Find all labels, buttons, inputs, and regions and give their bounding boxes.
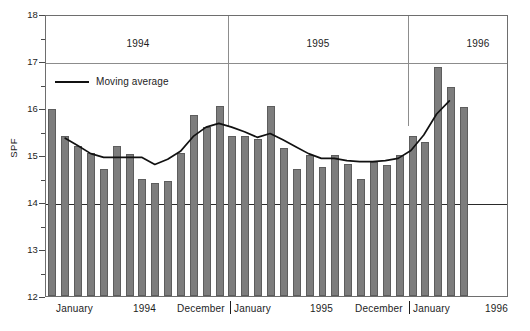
legend-line-swatch	[55, 81, 89, 83]
x-label-december-1994: December	[177, 303, 225, 314]
y-tick-label-13: 13	[14, 245, 38, 255]
x-label-january-1994: January	[56, 303, 93, 314]
y-tick-12	[39, 297, 45, 298]
x-label-1996: 1996	[485, 303, 508, 314]
x-divider-mark-1	[230, 301, 231, 314]
y-tick-label-12: 12	[14, 292, 38, 302]
legend: Moving average	[55, 76, 169, 87]
x-label-january-1995: January	[234, 303, 271, 314]
x-label-1995: 1995	[310, 303, 333, 314]
x-label-december-1995: December	[355, 303, 403, 314]
y-tick-label-18: 18	[14, 10, 38, 20]
spf-bar-chart-figure: SPF 12131415161718 1994 1995 1996 Moving…	[0, 0, 530, 331]
y-tick-label-15: 15	[14, 151, 38, 161]
x-divider-mark-2	[409, 301, 410, 314]
x-label-1994: 1994	[133, 303, 156, 314]
moving-average-line	[46, 16, 507, 296]
y-tick-label-14: 14	[14, 198, 38, 208]
plot-area: 1994 1995 1996	[45, 15, 508, 297]
y-tick-label-16: 16	[14, 104, 38, 114]
legend-label-moving-average: Moving average	[96, 76, 169, 87]
x-label-january-1996: January	[413, 303, 450, 314]
y-tick-label-17: 17	[14, 57, 38, 67]
